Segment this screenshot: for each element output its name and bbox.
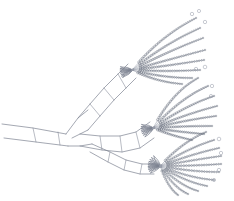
figure-background	[0, 0, 234, 201]
specimen-line-drawing	[0, 0, 234, 201]
figure-root	[0, 0, 234, 201]
